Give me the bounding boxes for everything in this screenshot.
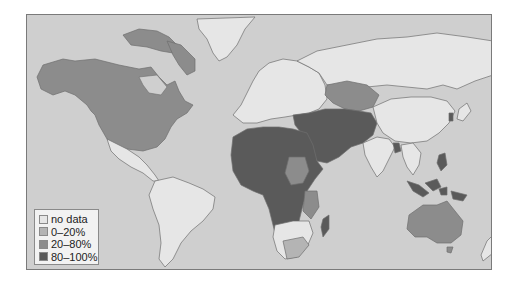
region-korea: [449, 113, 453, 121]
legend-label: 20–80%: [51, 238, 91, 250]
legend-swatch: [39, 252, 48, 261]
region-new-zealand: [481, 235, 492, 261]
region-philippines: [437, 153, 447, 171]
region-indonesia: [407, 179, 467, 201]
legend-swatch: [39, 240, 48, 249]
legend-item-80-100: 80–100%: [39, 251, 98, 264]
region-se-asia: [401, 143, 421, 175]
region-north-america: [37, 59, 193, 151]
legend-item-no-data: no data: [39, 213, 98, 226]
region-canada-arctic: [123, 29, 177, 53]
region-south-america: [149, 177, 215, 267]
legend-item-0-20: 0–20%: [39, 226, 98, 239]
legend-swatch: [39, 227, 48, 236]
region-baffin: [167, 41, 195, 75]
region-east-asia: [373, 97, 455, 143]
legend-label: no data: [51, 213, 88, 225]
region-australia: [407, 201, 463, 243]
region-bangladesh: [393, 143, 401, 153]
map-legend: no data 0–20% 20–80% 80–100%: [34, 209, 99, 265]
legend-swatch: [39, 215, 48, 224]
region-madagascar: [321, 215, 329, 237]
region-greenland: [197, 17, 255, 61]
legend-label: 0–20%: [51, 226, 85, 238]
region-east-africa: [303, 191, 319, 219]
legend-item-20-80: 20–80%: [39, 238, 98, 251]
region-india: [363, 137, 395, 177]
region-japan: [457, 103, 471, 121]
legend-label: 80–100%: [51, 251, 98, 263]
region-tasmania: [447, 247, 453, 253]
region-russia: [297, 33, 492, 89]
world-map: no data 0–20% 20–80% 80–100%: [26, 14, 492, 270]
region-south-africa: [283, 237, 309, 259]
